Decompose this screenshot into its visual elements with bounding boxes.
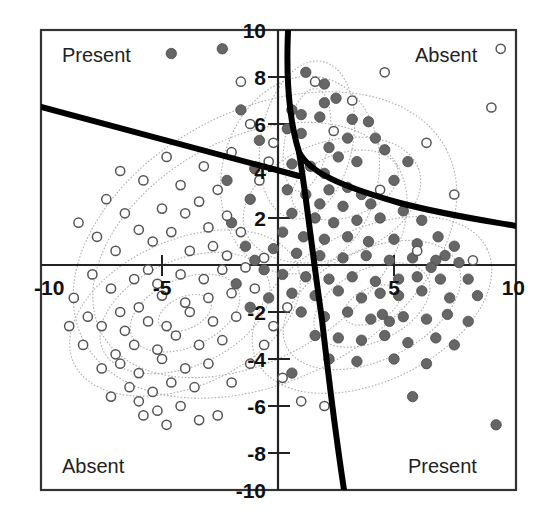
data-point-absent [139, 176, 148, 185]
data-point-absent [111, 246, 120, 255]
data-point-present [217, 44, 227, 54]
data-point-present [222, 175, 232, 185]
data-point-absent [269, 322, 278, 331]
xtick-neg10: -10 [34, 276, 64, 299]
data-point-absent [204, 293, 213, 302]
data-point-absent [176, 270, 185, 279]
ytick-neg2: -2 [247, 301, 266, 324]
data-point-present [333, 152, 343, 162]
data-point-present [245, 194, 255, 204]
data-point-absent [176, 181, 185, 190]
data-point-absent [260, 253, 269, 262]
data-point-present [324, 274, 334, 284]
data-point-absent [269, 138, 278, 147]
data-point-present [319, 234, 329, 244]
data-point-present [445, 293, 455, 303]
data-point-absent [92, 232, 101, 241]
data-point-absent [130, 340, 139, 349]
data-point-absent [134, 225, 143, 234]
data-point-present [356, 293, 366, 303]
ytick-4: 4 [254, 160, 266, 183]
xtick-10: 10 [502, 276, 525, 299]
data-point-absent [162, 322, 171, 331]
ytick-8: 8 [254, 66, 266, 89]
data-point-present [421, 359, 431, 369]
data-point-absent [106, 392, 115, 401]
data-point-absent [139, 411, 148, 420]
data-point-present [449, 241, 459, 251]
data-point-present [250, 255, 260, 265]
data-point-absent [250, 284, 259, 293]
data-point-absent [134, 303, 143, 312]
data-point-absent [413, 246, 422, 255]
data-point-absent [162, 152, 171, 161]
data-point-absent [236, 228, 245, 237]
data-point-present [254, 135, 264, 145]
data-point-present [166, 48, 176, 58]
data-point-present [370, 133, 380, 143]
data-point-present [342, 133, 352, 143]
data-point-absent [69, 293, 78, 302]
data-point-present [356, 335, 366, 345]
data-point-present [384, 316, 394, 326]
data-point-present [384, 255, 394, 265]
data-point-present [403, 337, 413, 347]
data-point-present [236, 105, 246, 115]
data-point-present [333, 333, 343, 343]
data-point-absent [297, 397, 306, 406]
data-point-present [315, 199, 325, 209]
data-point-present [491, 420, 501, 430]
xtick-5: 5 [388, 276, 400, 299]
data-point-present [454, 257, 464, 267]
data-point-absent [130, 275, 139, 284]
data-point-absent [195, 197, 204, 206]
data-point-absent [213, 411, 222, 420]
data-point-present [296, 307, 306, 317]
data-point-present [389, 354, 399, 364]
data-point-absent [162, 420, 171, 429]
quadrant-label-top-left: Present [62, 44, 131, 66]
data-point-present [324, 142, 334, 152]
data-point-absent [218, 336, 227, 345]
data-point-absent [311, 77, 320, 86]
data-point-absent [204, 359, 213, 368]
data-point-present [389, 175, 399, 185]
data-point-absent [181, 209, 190, 218]
data-point-present [389, 234, 399, 244]
data-point-absent [181, 364, 190, 373]
data-point-absent [241, 263, 250, 272]
data-point-absent [97, 364, 106, 373]
data-point-present [231, 279, 241, 289]
data-point-present [319, 79, 329, 89]
data-point-present [352, 356, 362, 366]
data-point-absent [208, 242, 217, 251]
data-point-present [352, 156, 362, 166]
data-point-absent [320, 401, 329, 410]
data-point-absent [204, 223, 213, 232]
data-point-present [319, 98, 329, 108]
data-point-present [310, 330, 320, 340]
data-point-present [301, 67, 311, 77]
data-point-present [435, 274, 445, 284]
data-point-absent [97, 322, 106, 331]
data-point-present [277, 227, 287, 237]
data-point-absent [157, 354, 166, 363]
data-point-absent [227, 289, 236, 298]
quadrant-label-bottom-left: Absent [62, 455, 125, 477]
data-point-absent [74, 218, 83, 227]
ytick-neg4: -4 [247, 348, 266, 371]
data-point-present [338, 253, 348, 263]
data-point-present [301, 272, 311, 282]
data-point-absent [167, 228, 176, 237]
data-point-absent [153, 406, 162, 415]
data-point-present [296, 109, 306, 119]
quadrant-label-top-right: Absent [415, 44, 478, 66]
data-point-absent [65, 322, 74, 331]
data-point-absent [181, 298, 190, 307]
data-point-absent [176, 401, 185, 410]
ytick-2: 2 [254, 207, 266, 230]
data-point-present [431, 333, 441, 343]
data-point-present [282, 185, 292, 195]
data-point-present [259, 265, 269, 275]
data-point-present [333, 286, 343, 296]
